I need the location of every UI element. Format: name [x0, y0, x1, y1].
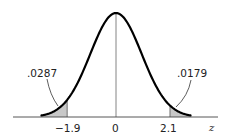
- tick-label-left: −1.9: [55, 123, 81, 134]
- leader-line-right: [176, 80, 191, 107]
- axis-label-z: z: [209, 123, 214, 133]
- right-area-label: .0179: [177, 68, 207, 79]
- left-area-label: .0287: [27, 68, 57, 79]
- tick-label-right: 2.1: [160, 123, 177, 134]
- leader-line-left: [47, 79, 58, 106]
- tick-label-center: 0: [112, 123, 119, 134]
